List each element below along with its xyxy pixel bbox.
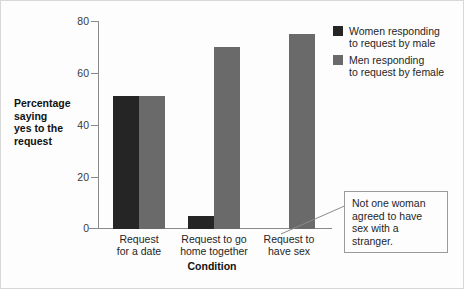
y-tick-mark-40	[91, 125, 98, 126]
plot-area	[98, 21, 326, 229]
annotation-callout: Not one woman agreed to have sex with a …	[344, 191, 448, 253]
legend-label-men-line-1: Men responding	[349, 54, 424, 66]
legend-swatch-icon-men	[333, 55, 343, 65]
bar-men-sex[interactable]	[289, 34, 315, 229]
y-tick-label-80: 80	[47, 16, 89, 27]
legend-entry-women[interactable]: Women responding to request by male	[333, 25, 461, 49]
y-tick-mark-60	[91, 73, 98, 74]
chart-legend: Women responding to request by male Men …	[333, 25, 461, 83]
x-label-line-2: have sex	[268, 245, 310, 257]
bar-men-home[interactable]	[214, 47, 240, 229]
legend-label-women-line-2: to request by male	[349, 37, 435, 49]
bar-women-date[interactable]	[113, 96, 139, 229]
legend-label-women-line-1: Women responding	[349, 25, 440, 37]
x-label-line-1: Request to	[264, 233, 315, 245]
bar-men-date[interactable]	[139, 96, 165, 229]
annotation-line-3: sex with a stranger.	[352, 222, 399, 247]
y-axis-title: Percentage saying yes to the request	[14, 97, 90, 147]
bar-group-request-to-have-sex	[263, 21, 315, 229]
legend-label-men-line-2: to request by female	[349, 66, 444, 78]
y-tick-mark-80	[91, 21, 98, 22]
y-axis-title-line-3: yes to the	[14, 122, 63, 134]
x-axis-title: Condition	[98, 260, 326, 272]
x-label-line-1: Request to go	[181, 233, 246, 245]
y-axis-title-line-2: saying	[14, 110, 47, 122]
x-label-request-to-have-sex: Request to have sex	[241, 233, 337, 257]
x-label-line-1: Request	[119, 233, 158, 245]
y-tick-label-0: 0	[47, 223, 89, 234]
y-tick-mark-20	[91, 177, 98, 178]
annotation-line-2: agreed to have	[352, 210, 422, 222]
annotation-line-1: Not one woman	[352, 197, 426, 209]
bar-group-request-for-a-date	[113, 21, 165, 229]
x-label-line-2: for a date	[117, 245, 161, 257]
legend-entry-men[interactable]: Men responding to request by female	[333, 54, 461, 78]
y-tick-label-20: 20	[47, 172, 89, 183]
y-tick-label-60: 60	[47, 68, 89, 79]
legend-swatch-icon-women	[333, 26, 343, 36]
y-axis-title-line-1: Percentage	[14, 97, 71, 109]
y-axis-title-line-4: request	[14, 135, 52, 147]
bar-women-home[interactable]	[188, 216, 214, 229]
legend-label-women: Women responding to request by male	[349, 25, 440, 49]
chart-figure: 80 60 40 20 0 Percentage saying yes to t…	[0, 0, 464, 289]
x-label-line-2: home together	[180, 245, 248, 257]
bar-group-request-to-go-home-together	[188, 21, 240, 229]
legend-label-men: Men responding to request by female	[349, 54, 444, 78]
